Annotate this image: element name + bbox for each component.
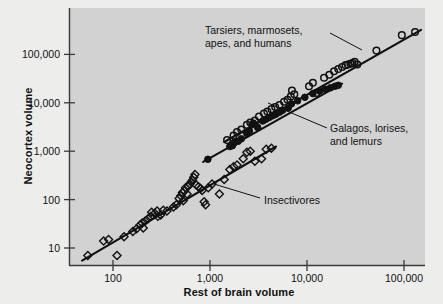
insectivore-label: Insectivores (264, 194, 320, 207)
x-axis-title: Rest of brain volume (69, 286, 409, 298)
y-tick-label: 10 (0, 242, 60, 254)
anthropoid-label: Tarsiers, marmosets,apes, and humans (205, 24, 302, 49)
annotation-line: Tarsiers, marmosets, (205, 24, 302, 37)
y-tick-label: 100 (0, 194, 60, 206)
y-tick-label: 10,000 (0, 97, 60, 109)
x-tick-label: 100,000 (364, 272, 443, 284)
annotation-line: Insectivores (264, 194, 320, 207)
annotation-line: Galagos, lorises, (330, 122, 408, 135)
prosimian-label: Galagos, lorises,and lemurs (330, 122, 408, 147)
annotation-line: and lemurs (330, 135, 408, 148)
y-axis-title: Neocortex volume (22, 61, 34, 211)
x-tick-label: 100 (73, 272, 153, 284)
x-tick-label: 10,000 (267, 272, 347, 284)
x-tick-label: 1,000 (170, 272, 250, 284)
annotation-line: apes, and humans (205, 37, 302, 50)
y-tick-label: 1,000 (0, 145, 60, 157)
y-tick-label: 100,000 (0, 48, 60, 60)
